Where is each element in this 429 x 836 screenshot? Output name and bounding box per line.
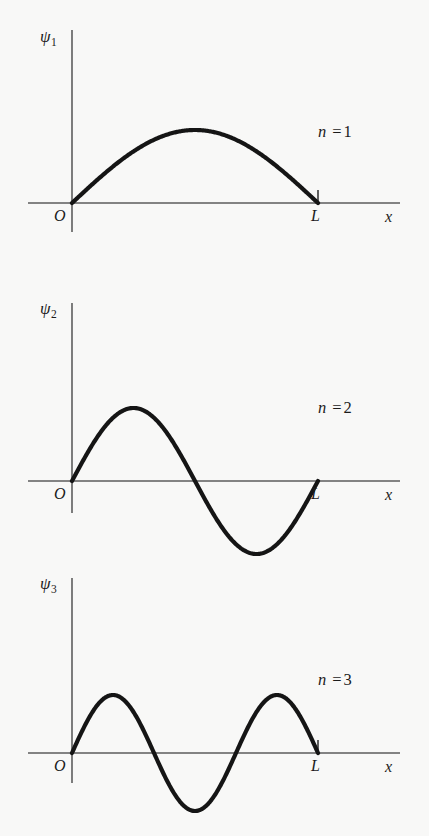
mode-equals: = — [326, 670, 341, 689]
psi-symbol: ψ — [40, 574, 51, 593]
mode-variable: n — [318, 670, 326, 689]
panel-n3-origin-label: O — [54, 758, 66, 774]
panel-n3-mode-annotation: n=3 — [318, 672, 352, 689]
panel-n3-end-label: L — [311, 758, 320, 774]
panel-n3-psi-label: ψ3 — [40, 575, 57, 595]
panel-n3: ψ3OLxn=3 — [0, 0, 429, 836]
mode-value: 3 — [342, 670, 352, 689]
panel-n3-x-axis-label: x — [385, 759, 392, 775]
panel-n3-plot — [0, 0, 429, 836]
psi-subscript: 3 — [51, 583, 57, 595]
wavefunction-figure: ψ1OLxn=1ψ2OLxn=2ψ3OLxn=3 — [0, 0, 429, 836]
